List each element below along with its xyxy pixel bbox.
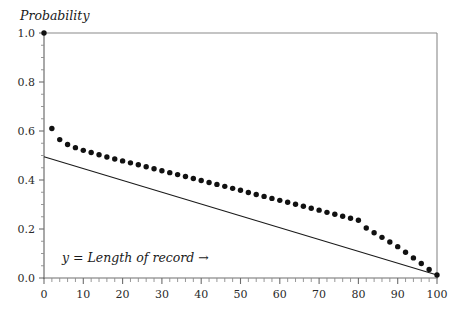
y-axis: 0.00.20.40.60.81.0	[18, 27, 45, 285]
data-point	[57, 137, 62, 142]
data-point	[426, 267, 431, 272]
y-tick-label: 1.0	[18, 27, 36, 40]
data-point	[88, 150, 93, 155]
y-tick-label: 0.4	[18, 174, 36, 187]
data-point	[151, 166, 156, 171]
data-point	[356, 217, 361, 222]
data-point	[222, 184, 227, 189]
x-tick-label: 30	[155, 288, 169, 301]
data-point	[371, 230, 376, 235]
x-tick-label: 90	[391, 288, 405, 301]
data-point	[269, 196, 274, 201]
data-point	[230, 186, 235, 191]
data-point	[309, 205, 314, 210]
x-axis-title: y = Length of record →	[61, 250, 209, 265]
data-point	[175, 172, 180, 177]
x-tick-label: 70	[312, 288, 326, 301]
data-point	[254, 192, 259, 197]
data-point	[261, 194, 266, 199]
data-point	[159, 168, 164, 173]
data-point	[96, 152, 101, 157]
x-tick-label: 60	[273, 288, 287, 301]
data-point	[136, 162, 141, 167]
x-tick-label: 0	[41, 288, 48, 301]
data-point	[73, 145, 78, 150]
chart-figure: 0.00.20.40.60.81.0 010203040506070809010…	[0, 0, 473, 311]
x-tick-label: 80	[351, 288, 365, 301]
data-point	[128, 160, 133, 165]
data-point	[387, 239, 392, 244]
data-point	[419, 261, 424, 266]
data-point	[324, 210, 329, 215]
data-point	[49, 126, 54, 131]
data-point	[340, 214, 345, 219]
data-point	[246, 190, 251, 195]
x-axis: 0102030405060708090100	[41, 278, 448, 301]
data-point	[293, 202, 298, 207]
x-tick-label: 20	[116, 288, 130, 301]
x-tick-label: 50	[234, 288, 248, 301]
data-point	[316, 207, 321, 212]
data-point	[395, 244, 400, 249]
data-point	[332, 212, 337, 217]
data-point	[206, 180, 211, 185]
data-point	[379, 235, 384, 240]
y-axis-title: Probability	[19, 8, 90, 23]
data-point	[434, 272, 439, 277]
data-point	[411, 255, 416, 260]
data-point	[120, 158, 125, 163]
x-tick-label: 10	[76, 288, 90, 301]
data-point	[112, 156, 117, 161]
data-point-series	[41, 30, 439, 277]
data-point	[143, 164, 148, 169]
x-tick-label: 40	[194, 288, 208, 301]
y-tick-label: 0.0	[18, 272, 36, 285]
data-point	[81, 148, 86, 153]
data-point	[301, 204, 306, 209]
data-point	[364, 225, 369, 230]
data-point	[199, 178, 204, 183]
data-point	[183, 174, 188, 179]
data-point	[104, 154, 109, 159]
plot-area: 0.00.20.40.60.81.0 010203040506070809010…	[0, 0, 473, 311]
data-point	[191, 176, 196, 181]
y-tick-label: 0.8	[18, 76, 36, 89]
y-tick-label: 0.2	[18, 223, 36, 236]
y-tick-label: 0.6	[18, 125, 36, 138]
data-point	[285, 200, 290, 205]
data-point	[277, 198, 282, 203]
data-point	[214, 182, 219, 187]
x-tick-label: 100	[427, 288, 448, 301]
data-point	[238, 188, 243, 193]
data-point	[167, 170, 172, 175]
data-point	[348, 216, 353, 221]
plot-frame	[44, 33, 437, 278]
data-point	[403, 250, 408, 255]
data-point	[65, 142, 70, 147]
data-point	[41, 30, 46, 35]
